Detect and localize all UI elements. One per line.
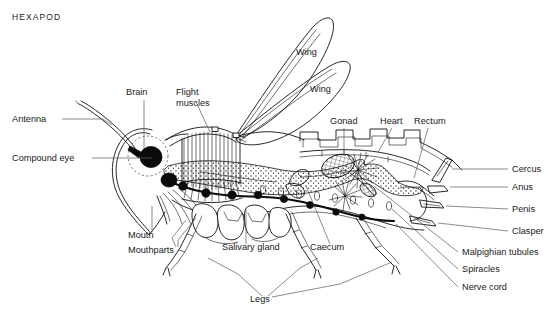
ganglion	[333, 209, 339, 215]
leader-legs-3	[272, 262, 392, 297]
label-caecum: Caecum	[310, 242, 345, 252]
brain-shape	[140, 147, 162, 168]
thoracic-spiracle-2	[233, 133, 239, 138]
label-mouth: Mouth	[128, 230, 154, 240]
leader-spiracles	[392, 209, 458, 269]
leader-malpighian	[374, 186, 458, 252]
label-rectum: Rectum	[414, 116, 446, 126]
leader-penis	[446, 206, 508, 209]
labels-group: Antenna Compound eye Brain Flight muscle…	[12, 87, 544, 304]
label-compound-eye: Compound eye	[12, 153, 74, 163]
label-anus: Anus	[512, 182, 533, 192]
label-mouthparts: Mouthparts	[128, 245, 174, 255]
ganglion	[228, 191, 236, 199]
leader-caecum	[306, 186, 330, 244]
leader-mouthparts-2	[172, 220, 186, 247]
penis-shape	[420, 200, 444, 208]
label-nerve-cord: Nerve cord	[462, 282, 507, 292]
ganglion	[280, 195, 287, 202]
thoracic-spiracle-1	[212, 127, 218, 132]
head-group	[112, 129, 188, 235]
label-malpighian-tubules: Malpighian tubules	[462, 247, 539, 257]
label-salivary-gland: Salivary gland	[222, 242, 280, 252]
ganglion	[254, 191, 262, 199]
label-spiracles: Spiracles	[462, 264, 500, 274]
wing-lower-label: Wing	[310, 84, 331, 94]
leader-clasper	[438, 223, 508, 231]
label-clasper: Clasper	[512, 226, 544, 236]
figure-title: HEXAPOD	[12, 12, 61, 22]
hexapod-anatomy-figure: HEXAPOD Wing Wing	[0, 0, 549, 316]
leader-legs-1	[208, 258, 262, 296]
label-flight-muscles-line1: Flight	[176, 87, 199, 97]
leader-nerve-cord	[396, 224, 458, 287]
antenna-group	[76, 101, 135, 150]
label-flight-muscles-line2: muscles	[176, 98, 210, 108]
anus-shape	[428, 186, 448, 193]
ganglion	[179, 182, 187, 190]
label-legs: Legs	[250, 294, 270, 304]
label-gonad: Gonad	[330, 116, 358, 126]
diagram-canvas: HEXAPOD Wing Wing	[0, 0, 549, 316]
label-brain: Brain	[126, 87, 147, 97]
label-penis: Penis	[512, 204, 535, 214]
cercus-shape	[432, 158, 452, 182]
label-heart: Heart	[380, 116, 403, 126]
label-cercus: Cercus	[512, 164, 542, 174]
leader-heart	[378, 128, 392, 152]
wing-upper-label: Wing	[296, 47, 317, 57]
leg-hind	[356, 216, 400, 274]
ganglion	[307, 202, 314, 209]
label-antenna: Antenna	[12, 114, 47, 124]
salivary-gland-shape	[192, 204, 291, 244]
ganglion	[202, 189, 210, 197]
leader-legs-2	[268, 258, 318, 296]
